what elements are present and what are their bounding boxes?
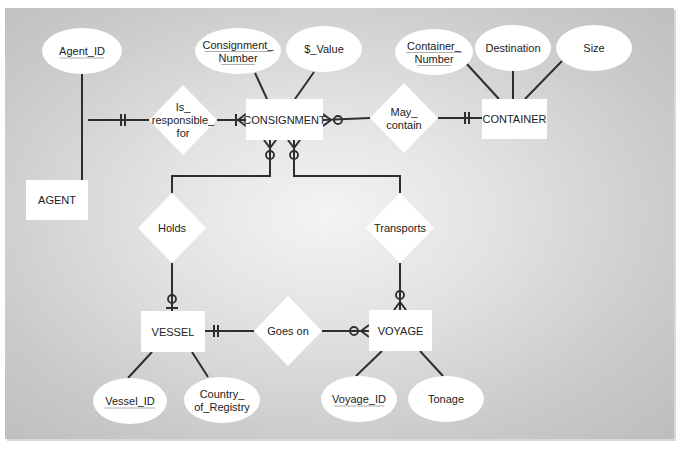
attribute-consignment_number[interactable]: Consignment_Number: [195, 28, 281, 74]
entity-label: AGENT: [38, 194, 76, 206]
relationship-holds[interactable]: Holds: [138, 193, 206, 263]
attribute-destination[interactable]: Destination: [475, 25, 551, 71]
connector-segment: [128, 352, 152, 378]
entity-agent[interactable]: AGENT: [26, 180, 88, 220]
attribute-vessel_id[interactable]: Vessel_ID: [93, 378, 167, 424]
label-text: responsible_: [152, 114, 215, 126]
relationship-transports[interactable]: Transports: [366, 193, 434, 263]
entity-label: VESSEL: [152, 326, 195, 338]
label-text: contain: [386, 119, 421, 131]
diagram-shapes: AGENTCONSIGNMENTCONTAINERVESSELVOYAGEIs_…: [26, 25, 632, 424]
relationship-may_contain[interactable]: May_contain: [370, 83, 438, 153]
attribute-agent_id[interactable]: Agent_ID: [42, 28, 122, 74]
attribute-tonage[interactable]: Tonage: [408, 376, 484, 422]
entity-consignment[interactable]: CONSIGNMENT: [243, 99, 326, 140]
connector-segment: [255, 73, 267, 99]
attribute-voyage_id[interactable]: Voyage_ID: [321, 376, 397, 422]
label-text: of_Registry: [194, 401, 250, 413]
label-text: Number: [218, 52, 257, 64]
entity-label: VOYAGE: [378, 325, 424, 337]
connector-segment: [192, 352, 208, 377]
attribute-country_of_registry[interactable]: Country_of_Registry: [184, 377, 260, 423]
label-text: Transports: [374, 222, 427, 234]
label-text: Is_: [176, 101, 192, 113]
connector-segment: [356, 351, 382, 376]
label-text: Goes on: [267, 325, 309, 337]
attribute-size[interactable]: Size: [556, 25, 632, 71]
label-text: Consignment_: [203, 39, 275, 51]
label-text: Voyage_ID: [332, 393, 386, 405]
er-diagram: AGENTCONSIGNMENTCONTAINERVESSELVOYAGEIs_…: [0, 0, 684, 449]
entity-label: CONSIGNMENT: [243, 114, 326, 126]
entity-container[interactable]: CONTAINER: [482, 99, 547, 139]
er-diagram-canvas: AGENTCONSIGNMENTCONTAINERVESSELVOYAGEIs_…: [0, 0, 684, 449]
connector-segment: [420, 351, 443, 376]
connector-segment: [295, 72, 314, 99]
label-text: May_: [391, 106, 419, 118]
attribute-container_number[interactable]: Container_Number: [395, 29, 473, 75]
entity-voyage[interactable]: VOYAGE: [369, 310, 432, 351]
entity-vessel[interactable]: VESSEL: [141, 311, 205, 352]
label-text: Agent_ID: [59, 45, 105, 57]
label-text: Container_: [407, 40, 462, 52]
relationship-is_responsible_for[interactable]: Is_responsible_for: [149, 85, 217, 155]
label-text: $_Value: [304, 43, 344, 55]
entity-label: CONTAINER: [483, 113, 547, 125]
label-text: Size: [583, 42, 604, 54]
label-text: Tonage: [428, 393, 464, 405]
label-text: Destination: [485, 42, 540, 54]
label-text: for: [177, 127, 190, 139]
attribute-value[interactable]: $_Value: [286, 26, 362, 72]
relationship-connector: [294, 140, 400, 193]
relationship-goes_on[interactable]: Goes on: [254, 296, 322, 366]
label-text: Holds: [158, 222, 187, 234]
label-text: Country_: [200, 388, 246, 400]
label-text: Number: [414, 53, 453, 65]
label-text: Vessel_ID: [105, 395, 155, 407]
